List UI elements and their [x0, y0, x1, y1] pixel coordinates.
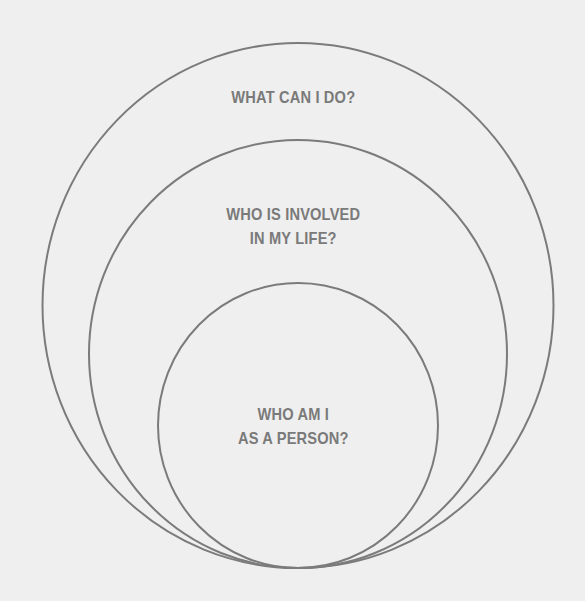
outer-ring [43, 43, 554, 568]
inner-ring-label-line-2: AS A PERSON? [42, 427, 545, 451]
middle-ring-label-line-1: WHO IS INVOLVED [42, 203, 545, 227]
middle-ring-label: WHO IS INVOLVED IN MY LIFE? [42, 203, 545, 251]
inner-ring-label-line-1: WHO AM I [42, 403, 545, 427]
outer-ring-label-line-1: WHAT CAN I DO? [42, 86, 545, 110]
middle-ring-label-line-2: IN MY LIFE? [42, 227, 545, 251]
outer-ring-label: WHAT CAN I DO? [42, 86, 545, 110]
inner-ring-label: WHO AM I AS A PERSON? [42, 403, 545, 451]
